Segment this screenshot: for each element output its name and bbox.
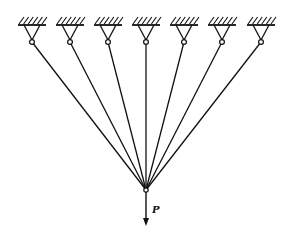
support-hatch <box>80 17 85 24</box>
support-hatch <box>75 17 80 24</box>
support-leg <box>222 25 230 40</box>
support-hatch <box>156 17 161 24</box>
support-hatch <box>266 17 271 24</box>
support-hatch <box>104 17 109 24</box>
support-hatch <box>194 17 199 24</box>
support-hatch <box>257 17 262 24</box>
support-hatch <box>232 17 237 24</box>
support-hatch <box>147 17 152 24</box>
support-hatch <box>33 17 38 24</box>
support-hatch <box>176 17 181 24</box>
bar-system-diagram <box>0 0 289 239</box>
support-hatch <box>223 17 228 24</box>
support-leg <box>146 25 154 40</box>
support-hatch <box>171 17 176 24</box>
support-hatch <box>71 17 76 24</box>
support-leg <box>184 25 192 40</box>
support-leg <box>62 25 70 40</box>
pin-joint-icon <box>30 40 35 45</box>
pin-joint-icon <box>182 40 187 45</box>
support-leg <box>32 25 40 40</box>
support-hatch <box>66 17 71 24</box>
load-label-p: P <box>152 204 160 215</box>
support-hatch <box>100 17 105 24</box>
support-leg <box>214 25 222 40</box>
bar-7 <box>146 42 261 190</box>
node-pin-icon <box>144 188 148 192</box>
support-hatch <box>118 17 123 24</box>
bar-1 <box>32 42 146 190</box>
pin-joint-icon <box>259 40 264 45</box>
support-hatch <box>28 17 33 24</box>
support-leg <box>176 25 184 40</box>
support-hatch <box>24 17 29 24</box>
bar-2 <box>70 42 146 190</box>
pin-joint-icon <box>68 40 73 45</box>
support-hatch <box>271 17 276 24</box>
support-hatch <box>57 17 62 24</box>
support-leg <box>108 25 116 40</box>
support-hatch <box>42 17 47 24</box>
bar-5 <box>146 42 184 190</box>
support-hatch <box>262 17 267 24</box>
bar-3 <box>108 42 146 190</box>
support-hatch <box>95 17 100 24</box>
support-hatch <box>109 17 114 24</box>
support-hatch <box>189 17 194 24</box>
bar-6 <box>146 42 222 190</box>
support-hatch <box>19 17 24 24</box>
support-hatch <box>218 17 223 24</box>
support-hatch <box>209 17 214 24</box>
support-hatch <box>62 17 67 24</box>
pin-joint-icon <box>144 40 149 45</box>
arrow-down-icon <box>143 218 149 226</box>
support-leg <box>100 25 108 40</box>
pin-joint-icon <box>106 40 111 45</box>
support-hatch <box>214 17 219 24</box>
support-leg <box>261 25 269 40</box>
support-hatch <box>142 17 147 24</box>
support-hatch <box>253 17 258 24</box>
support-leg <box>70 25 78 40</box>
support-leg <box>253 25 261 40</box>
support-leg <box>24 25 32 40</box>
support-hatch <box>185 17 190 24</box>
support-hatch <box>133 17 138 24</box>
support-hatch <box>248 17 253 24</box>
pin-joint-icon <box>220 40 225 45</box>
support-hatch <box>37 17 42 24</box>
support-hatch <box>227 17 232 24</box>
support-hatch <box>113 17 118 24</box>
support-leg <box>138 25 146 40</box>
support-hatch <box>180 17 185 24</box>
support-hatch <box>151 17 156 24</box>
support-hatch <box>138 17 143 24</box>
